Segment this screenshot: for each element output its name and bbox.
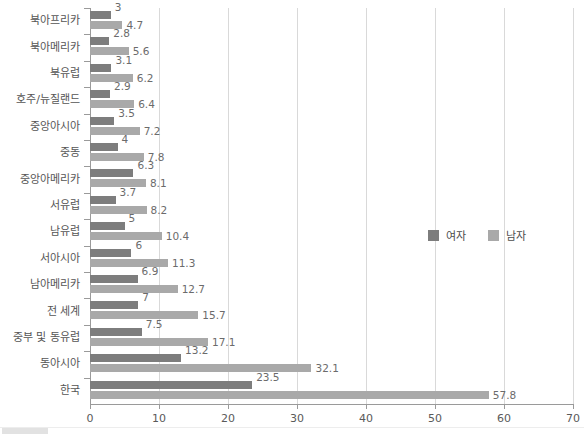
bar-value-label: 57.8	[493, 390, 516, 401]
bar-rows: 34.72.85.63.16.22.96.43.57.247.86.38.13.…	[90, 8, 573, 404]
bar-female	[90, 275, 138, 283]
bar-female	[90, 64, 111, 72]
x-axis-tick	[435, 404, 436, 409]
bar-row: 3.16.2	[90, 61, 573, 87]
bar-row: 34.7	[90, 8, 573, 34]
x-axis-tick	[228, 404, 229, 409]
bar-value-label: 7.2	[144, 126, 161, 137]
y-axis-label-3: 호주/뉴질랜드	[16, 93, 80, 106]
y-axis-label-12: 중부 및 동유럽	[13, 331, 80, 344]
bar-value-label: 15.7	[202, 310, 225, 321]
bar-female	[90, 11, 111, 19]
x-axis-tick-label: 60	[497, 412, 511, 425]
bar-male	[90, 153, 144, 161]
bar-value-label: 4	[122, 134, 129, 145]
bar-male	[90, 232, 162, 240]
bar-female	[90, 117, 114, 125]
gridline-70	[573, 8, 574, 404]
bottom-left-chip	[2, 428, 48, 434]
bar-value-label: 2.9	[114, 81, 131, 92]
y-axis-label-5: 중동	[60, 146, 80, 159]
bar-value-label: 23.5	[256, 372, 279, 383]
x-axis-line	[90, 404, 573, 405]
x-axis-tick-label: 50	[428, 412, 442, 425]
bar-male	[90, 391, 489, 399]
bar-female	[90, 37, 109, 45]
bar-value-label: 8.1	[150, 178, 167, 189]
x-axis-tick-label: 0	[87, 412, 94, 425]
plot-area: 34.72.85.63.16.22.96.43.57.247.86.38.13.…	[90, 8, 573, 404]
x-axis-tick-label: 20	[221, 412, 235, 425]
bar-value-label: 2.8	[113, 28, 130, 39]
y-axis-label-1: 북아메리카	[30, 41, 80, 54]
y-axis-label-7: 서유럽	[50, 199, 80, 212]
bar-female	[90, 381, 252, 389]
x-axis-tick-label: 30	[290, 412, 304, 425]
bar-male	[90, 206, 147, 214]
bar-row: 47.8	[90, 140, 573, 166]
y-axis-label-6: 중앙아메리카	[20, 173, 80, 186]
bar-female	[90, 222, 125, 230]
bar-chart-figure: 북아프리카북아메리카북유럽호주/뉴질랜드중앙아시아중동중앙아메리카서유럽남유럽서…	[0, 0, 584, 436]
y-axis-label-13: 동아시아	[40, 357, 80, 370]
bar-value-label: 3.1	[115, 55, 132, 66]
bar-female	[90, 196, 116, 204]
legend-swatch-icon	[428, 230, 439, 241]
bar-row: 6.38.1	[90, 166, 573, 192]
bar-row: 3.78.2	[90, 193, 573, 219]
y-axis-label-10: 남아메리카	[30, 278, 80, 291]
y-axis-label-14: 한국	[60, 384, 80, 397]
bar-value-label: 8.2	[151, 205, 168, 216]
x-axis-tick	[504, 404, 505, 409]
legend-item-0[interactable]: 여자	[428, 227, 466, 243]
bar-row: 13.232.1	[90, 351, 573, 377]
bar-value-label: 7	[142, 292, 149, 303]
bar-value-label: 5	[129, 213, 136, 224]
bar-value-label: 6.9	[142, 266, 159, 277]
bar-female	[90, 90, 110, 98]
y-axis-label-8: 남유럽	[50, 225, 80, 238]
bar-value-label: 7.5	[146, 319, 163, 330]
bar-male	[90, 127, 140, 135]
x-axis-tick	[366, 404, 367, 409]
bar-value-label: 13.2	[185, 345, 208, 356]
legend-label: 남자	[506, 227, 526, 243]
legend-item-1[interactable]: 남자	[488, 227, 526, 243]
bar-value-label: 6	[135, 240, 142, 251]
bar-male	[90, 311, 198, 319]
bar-row: 3.57.2	[90, 114, 573, 140]
bottom-edge-strip	[0, 427, 584, 436]
bar-female	[90, 354, 181, 362]
bar-value-label: 5.6	[133, 46, 150, 57]
bar-value-label: 3.7	[120, 187, 137, 198]
bar-row: 2.96.4	[90, 87, 573, 113]
legend-swatch-icon	[488, 230, 499, 241]
bottom-divider	[0, 427, 584, 428]
bar-value-label: 12.7	[182, 284, 205, 295]
y-axis-category-labels: 북아프리카북아메리카북유럽호주/뉴질랜드중앙아시아중동중앙아메리카서유럽남유럽서…	[0, 8, 86, 404]
y-axis-label-11: 전 세계	[47, 305, 81, 318]
bar-value-label: 11.3	[172, 258, 195, 269]
bar-value-label: 6.2	[137, 73, 154, 84]
x-axis-tick-label: 10	[152, 412, 166, 425]
bar-value-label: 10.4	[166, 231, 189, 242]
x-axis-tick	[573, 404, 574, 409]
y-axis-label-2: 북유럽	[50, 67, 80, 80]
bar-row: 7.517.1	[90, 325, 573, 351]
bar-row: 6.912.7	[90, 272, 573, 298]
bar-value-label: 6.4	[138, 99, 155, 110]
bar-female	[90, 249, 131, 257]
bar-female	[90, 328, 142, 336]
bar-row: 2.85.6	[90, 34, 573, 60]
y-axis-label-0: 북아프리카	[30, 14, 80, 27]
bar-row: 611.3	[90, 246, 573, 272]
bar-value-label: 3.5	[118, 108, 135, 119]
x-axis-tick	[159, 404, 160, 409]
y-axis-label-9: 서아시아	[40, 252, 80, 265]
bar-row: 23.557.8	[90, 378, 573, 404]
x-axis-tick-label: 70	[566, 412, 580, 425]
bar-value-label: 3	[115, 2, 122, 13]
chart-legend: 여자남자	[428, 227, 526, 243]
x-axis-tick	[297, 404, 298, 409]
bar-female	[90, 301, 138, 309]
